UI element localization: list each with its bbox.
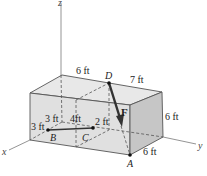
label-c: C	[82, 132, 89, 143]
point-d-dot	[107, 81, 111, 85]
y-axis	[163, 137, 196, 144]
x-axis	[9, 140, 30, 150]
dim-b-back: 3 ft	[45, 113, 59, 124]
label-force: F	[121, 106, 128, 118]
label-b: B	[50, 132, 56, 143]
label-d: D	[104, 70, 113, 81]
point-a-dot	[128, 153, 132, 157]
dim-bottom-right: 6 ft	[143, 146, 157, 157]
dim-b-x-edge: 3 ft	[31, 121, 45, 132]
box-force-diagram: z x y	[0, 0, 207, 176]
dim-top-left: 6 ft	[76, 65, 90, 76]
x-axis-label: x	[1, 146, 7, 157]
y-axis-label: y	[197, 140, 203, 151]
dim-right-height: 6 ft	[165, 111, 179, 122]
dim-top-right: 7 ft	[130, 74, 144, 85]
dim-b-c: 4ft	[70, 113, 81, 124]
dim-c-offset: 2 ft	[95, 116, 109, 127]
label-a: A	[126, 158, 134, 169]
z-axis-label: z	[57, 0, 62, 8]
